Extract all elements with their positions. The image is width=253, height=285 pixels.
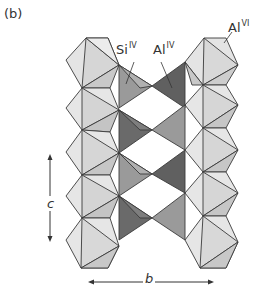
panel-label: (b) — [4, 7, 22, 20]
si-label-base: Si — [116, 42, 128, 57]
al-tetrahedral-label: AlIV — [153, 43, 174, 56]
si-tetrahedral-label: SiIV — [116, 43, 137, 56]
left-octahedral-chain — [66, 38, 119, 268]
si-label-superscript: IV — [129, 41, 137, 50]
tetrahedral-chain — [119, 62, 185, 240]
al4-label-base: Al — [153, 42, 166, 57]
c-axis-label: c — [47, 196, 54, 211]
b-axis-label: b — [143, 272, 155, 285]
al6-label-base: Al — [228, 20, 241, 35]
al-octahedral-label: AlVI — [228, 21, 249, 34]
al6-label-superscript: VI — [242, 19, 250, 28]
right-octahedral-chain — [185, 38, 238, 268]
al4-label-superscript: IV — [167, 41, 175, 50]
sillimanite-structure-figure: (b) SiIV AlIV AlVI c b — [0, 0, 253, 285]
